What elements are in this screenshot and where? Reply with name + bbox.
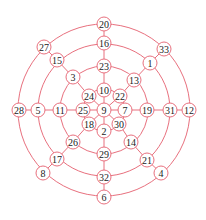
node-label: 10 [99,85,109,96]
graph-canvas: 9102273021825242313191429261131613121321… [0,0,206,220]
node-label: 29 [99,149,109,160]
node-label: 27 [39,42,49,53]
node-20: 20 [97,17,111,31]
node-label: 19 [142,105,152,116]
node-32: 32 [97,170,111,184]
node-22: 22 [113,89,127,103]
node-label: 11 [55,105,65,116]
node-24: 24 [82,89,96,103]
node-1: 1 [143,56,157,70]
node-group: 9102273021825242313191429261131613121321… [12,17,196,204]
node-17: 17 [50,152,64,166]
node-11: 11 [53,103,67,117]
node-14: 14 [124,135,138,149]
node-26: 26 [66,135,80,149]
node-5: 5 [31,103,45,117]
node-label: 16 [99,38,109,49]
node-label: 18 [84,119,94,130]
node-3: 3 [66,70,80,84]
node-2: 2 [97,124,111,138]
node-label: 28 [14,105,24,116]
node-label: 33 [159,44,169,55]
node-4: 4 [154,166,168,180]
node-label: 31 [165,105,175,116]
node-8: 8 [36,166,50,180]
node-29: 29 [97,147,111,161]
node-15: 15 [50,53,64,67]
node-label: 8 [41,168,46,179]
concentric-graph-diagram: 9102273021825242313191429261131613121321… [0,0,206,220]
node-19: 19 [140,103,154,117]
node-18: 18 [82,117,96,131]
node-label: 32 [99,172,109,183]
node-10: 10 [97,83,111,97]
node-31: 31 [163,103,177,117]
node-label: 30 [114,119,124,130]
node-label: 3 [71,72,76,83]
node-label: 9 [102,105,107,116]
node-12: 12 [182,103,196,117]
node-label: 25 [78,105,88,116]
node-label: 13 [129,75,139,86]
node-27: 27 [37,40,51,54]
node-label: 4 [159,168,164,179]
node-label: 6 [102,192,107,203]
node-label: 7 [123,105,128,116]
node-label: 2 [102,126,107,137]
node-25: 25 [76,103,90,117]
node-9: 9 [97,103,111,117]
node-28: 28 [12,103,26,117]
node-label: 24 [84,91,94,102]
node-label: 21 [142,155,152,166]
node-30: 30 [112,117,126,131]
node-33: 33 [157,42,171,56]
node-label: 20 [99,19,109,30]
node-label: 23 [99,61,109,72]
node-6: 6 [97,190,111,204]
node-label: 14 [126,137,136,148]
node-label: 26 [68,137,78,148]
node-label: 15 [52,55,62,66]
node-label: 17 [52,154,62,165]
node-label: 12 [184,105,194,116]
node-13: 13 [127,73,141,87]
node-7: 7 [118,103,132,117]
node-label: 22 [115,91,125,102]
node-16: 16 [97,36,111,50]
node-label: 1 [148,58,153,69]
node-21: 21 [140,153,154,167]
node-label: 5 [36,105,41,116]
node-23: 23 [97,59,111,73]
